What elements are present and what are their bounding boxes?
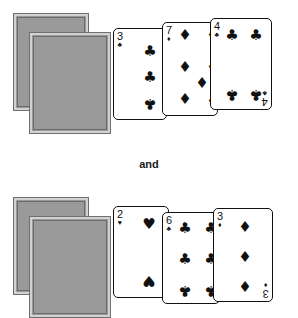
club-icon: ♣ bbox=[143, 44, 156, 59]
diamond-icon: ♦ bbox=[217, 221, 223, 228]
club-icon: ♣ bbox=[117, 41, 123, 48]
club-icon: ♣ bbox=[249, 87, 262, 102]
diamond-icon: ♦ bbox=[166, 35, 172, 42]
card-four-of-clubs[interactable]: 4 ♣ 4 ♣ ♣ ♣ ♣ ♣ bbox=[210, 18, 272, 110]
face-down-stack-top bbox=[14, 14, 114, 134]
card-index-top-left: 3 ♦ bbox=[217, 211, 223, 228]
heart-icon: ♥ bbox=[117, 219, 123, 226]
club-icon: ♣ bbox=[249, 28, 262, 43]
face-down-stack-bottom bbox=[14, 198, 114, 318]
card-index-top-left: 6 ♣ bbox=[166, 215, 172, 232]
card-index-bottom-right: 4 ♣ bbox=[262, 90, 268, 107]
card-rank: 4 bbox=[262, 96, 268, 107]
diamond-icon: ♦ bbox=[178, 28, 191, 43]
diamond-icon: ♦ bbox=[238, 250, 251, 265]
card-three-of-diamonds[interactable]: 3 ♦ 3 ♦ ♦ ♦ ♦ bbox=[213, 208, 273, 302]
card-index-top-left: 4 ♣ bbox=[214, 21, 220, 38]
diamond-icon: ♦ bbox=[178, 92, 191, 107]
card-rank: 3 bbox=[263, 288, 269, 299]
club-icon: ♣ bbox=[214, 31, 220, 38]
club-icon: ♣ bbox=[178, 221, 191, 236]
card-two-of-hearts[interactable]: 2 ♥ ♥ ♥ bbox=[113, 206, 169, 298]
heart-icon: ♥ bbox=[142, 217, 155, 232]
club-icon: ♣ bbox=[225, 87, 238, 102]
diamond-icon: ♦ bbox=[238, 278, 251, 293]
diamond-icon: ♦ bbox=[178, 60, 191, 75]
club-icon: ♣ bbox=[166, 225, 172, 232]
club-icon: ♣ bbox=[225, 28, 238, 43]
heart-icon: ♥ bbox=[142, 273, 155, 288]
club-icon: ♣ bbox=[178, 283, 191, 298]
card-index-bottom-right: 3 ♦ bbox=[263, 282, 269, 299]
card-index-top-left: 7 ♦ bbox=[166, 25, 172, 42]
card-six-of-clubs[interactable]: 6 ♣ ♣ ♣ ♣ ♣ ♣ ♣ bbox=[162, 212, 220, 304]
face-down-card-back bbox=[30, 217, 110, 317]
card-index-top-left: 2 ♥ bbox=[117, 209, 123, 226]
card-three-of-clubs[interactable]: 3 ♣ ♣ ♣ ♣ bbox=[113, 28, 167, 120]
club-icon: ♣ bbox=[143, 96, 156, 111]
diamond-icon: ♦ bbox=[195, 76, 208, 91]
face-down-card-back bbox=[30, 33, 110, 133]
diamond-icon: ♦ bbox=[238, 220, 251, 235]
card-index-top-left: 3 ♣ bbox=[117, 31, 123, 48]
club-icon: ♣ bbox=[178, 252, 191, 267]
club-icon: ♣ bbox=[143, 70, 156, 85]
connector-label: and bbox=[0, 158, 298, 170]
